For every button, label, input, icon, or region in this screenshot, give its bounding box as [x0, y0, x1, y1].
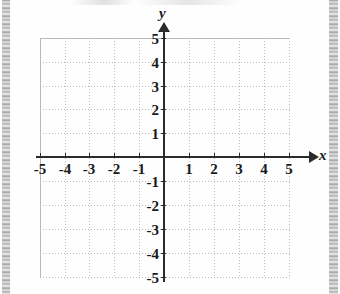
y-label-neg3: -3 [137, 223, 159, 238]
y-tick-neg5 [161, 277, 166, 278]
x-label-1: 1 [182, 162, 196, 177]
gridline-vertical-x-neg1 [139, 38, 140, 278]
y-axis-arrowhead-icon [158, 22, 170, 32]
y-label-neg1: -1 [137, 175, 159, 190]
y-tick-3 [161, 86, 166, 87]
y-label-5: 5 [143, 32, 159, 47]
y-tick-neg2 [161, 205, 166, 206]
x-label-5: 5 [282, 162, 296, 177]
x-tick-neg2 [114, 153, 115, 158]
gridline-vertical-x-neg3 [89, 38, 90, 278]
x-label-neg4: -4 [56, 162, 74, 177]
y-label-neg5: -5 [137, 271, 159, 286]
y-label-1: 1 [143, 127, 159, 142]
scanned-page: -5 -4 -3 -2 -1 1 2 3 4 5 5 4 3 2 1 -1 -2… [0, 0, 340, 294]
y-tick-neg4 [161, 253, 166, 254]
x-tick-4 [264, 153, 265, 158]
y-label-2: 2 [143, 103, 159, 118]
y-axis-line [163, 30, 165, 282]
x-tick-3 [239, 153, 240, 158]
x-tick-neg1 [139, 153, 140, 158]
y-tick-1 [161, 133, 166, 134]
x-axis-arrowhead-icon [309, 151, 319, 163]
x-tick-5 [289, 153, 290, 158]
y-label-neg4: -4 [137, 247, 159, 262]
gridline-vertical-x-5 [289, 38, 290, 278]
y-axis-label: y [159, 6, 166, 21]
x-tick-2 [214, 153, 215, 158]
x-axis-line [36, 156, 313, 158]
gridline-vertical-x-neg5 [40, 38, 41, 278]
gridline-vertical-x-neg2 [114, 38, 115, 278]
y-label-4: 4 [143, 56, 159, 71]
gridline-vertical-x-3 [239, 38, 240, 278]
gridline-vertical-x-2 [214, 38, 215, 278]
gridline-vertical-x-neg4 [65, 38, 66, 278]
coordinate-plane: -5 -4 -3 -2 -1 1 2 3 4 5 5 4 3 2 1 -1 -2… [0, 0, 340, 294]
x-tick-neg3 [89, 153, 90, 158]
x-label-4: 4 [257, 162, 271, 177]
y-tick-neg1 [161, 181, 166, 182]
y-tick-2 [161, 109, 166, 110]
gridline-vertical-x-4 [264, 38, 265, 278]
x-label-neg2: -2 [105, 162, 123, 177]
x-label-neg3: -3 [80, 162, 98, 177]
x-label-neg5: -5 [31, 162, 49, 177]
y-label-3: 3 [143, 80, 159, 95]
x-tick-neg5 [40, 153, 41, 158]
x-axis-label: x [319, 148, 327, 163]
y-tick-neg3 [161, 229, 166, 230]
x-tick-1 [189, 153, 190, 158]
x-label-2: 2 [207, 162, 221, 177]
x-tick-neg4 [65, 153, 66, 158]
x-label-3: 3 [232, 162, 246, 177]
y-tick-5 [161, 38, 166, 39]
y-tick-4 [161, 62, 166, 63]
y-label-neg2: -2 [137, 199, 159, 214]
gridline-vertical-x-1 [189, 38, 190, 278]
